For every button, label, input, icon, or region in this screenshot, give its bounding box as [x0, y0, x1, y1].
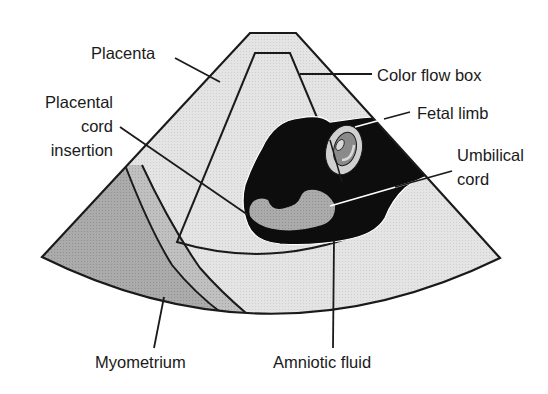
label-myometrium: Myometrium [95, 352, 186, 372]
label-umbilical-cord-1: Umbilical [457, 145, 524, 165]
label-placenta: Placenta [91, 43, 155, 63]
label-color-flow-box: Color flow box [377, 65, 482, 85]
leader-amniotic-fluid [333, 240, 334, 348]
ultrasound-diagram [0, 0, 548, 394]
leader-fetal-limb-outer [384, 112, 410, 119]
label-placental-cord-insertion-3: insertion [27, 140, 113, 160]
label-fetal-limb: Fetal limb [417, 103, 489, 123]
leader-myometrium [154, 297, 164, 348]
label-placental-cord-insertion-1: Placental [27, 92, 113, 112]
label-amniotic-fluid: Amniotic fluid [273, 352, 371, 372]
label-placental-cord-insertion-2: cord [27, 116, 113, 136]
leader-placenta [175, 58, 220, 82]
label-umbilical-cord-2: cord [457, 169, 489, 189]
